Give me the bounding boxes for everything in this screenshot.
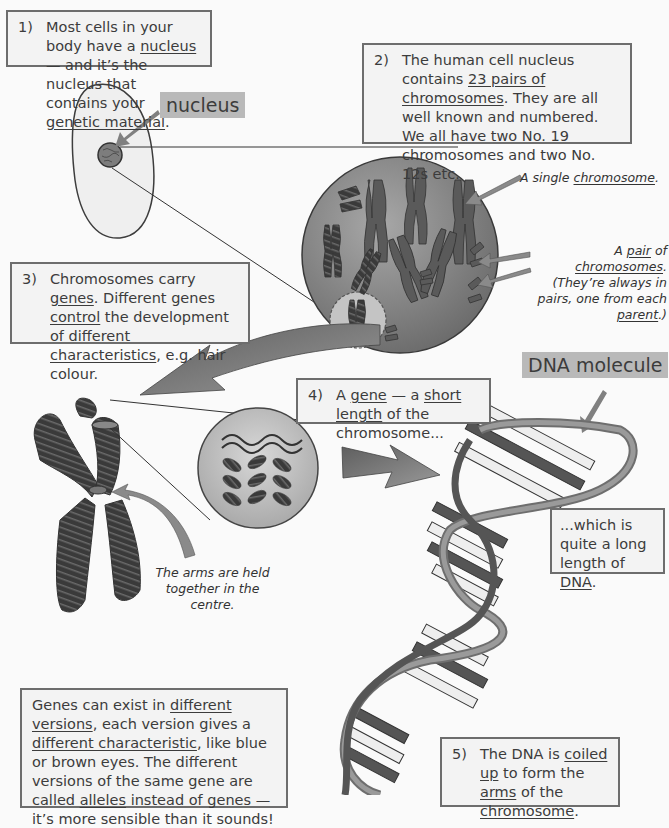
box-text: ...which is quite a long length of DNA. [560, 516, 655, 592]
nucleus-label: nucleus [160, 92, 245, 118]
info-box-alleles: Genes can exist in different versions, e… [20, 688, 288, 808]
box-text: Genes can exist in different versions, e… [32, 696, 278, 828]
info-box-4-gene: 4) A gene — a short length of the chromo… [296, 378, 491, 424]
step-number: 4) [308, 386, 323, 405]
note-pair-of-chromosomes: A pair of chromosomes. (They’re always i… [532, 243, 667, 323]
box-text: A gene — a short length of the chromosom… [336, 386, 481, 443]
step-number: 5) [452, 745, 467, 764]
arrow-to-dna [342, 445, 440, 488]
box-text: The human cell nucleus contains 23 pairs… [402, 51, 622, 184]
info-box-2-chromosomes: 2) The human cell nucleus contains 23 pa… [362, 43, 632, 144]
coiled-dna-illustration [198, 408, 318, 528]
box-text: Chromosomes carry genes. Different genes… [50, 270, 240, 384]
dna-molecule-label: DNA molecule [522, 352, 668, 378]
info-box-1-nucleus: 1) Most cells in your body have a nucleu… [6, 10, 212, 67]
step-number: 1) [18, 18, 33, 37]
step-number: 3) [22, 270, 37, 289]
nucleus-sphere-illustration [302, 157, 498, 353]
info-box-long-dna: ...which is quite a long length of DNA. [550, 508, 665, 574]
note-arms-held-together: The arms are held together in the centre… [150, 565, 275, 613]
info-box-5-coiled: 5) The DNA is coiled up to form the arms… [440, 737, 620, 807]
box-text: The DNA is coiled up to form the arms of… [480, 745, 610, 821]
info-box-3-genes: 3) Chromosomes carry genes. Different ge… [10, 262, 250, 344]
large-chromosome-illustration [34, 398, 140, 612]
step-number: 2) [374, 51, 389, 70]
note-single-chromosome: A single chromosome. [520, 170, 660, 186]
